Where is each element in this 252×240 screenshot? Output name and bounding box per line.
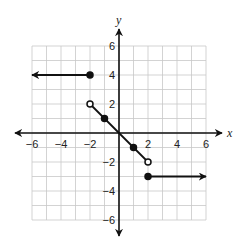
x-axis-label: x: [226, 126, 233, 140]
y-axis-label: y: [115, 13, 122, 27]
closed-point: [102, 116, 108, 122]
x-tick-label: −6: [26, 138, 39, 150]
y-tick-label: −4: [102, 185, 115, 197]
open-point: [87, 101, 93, 107]
x-tick-label: 2: [145, 138, 151, 150]
x-tick-label: −4: [55, 138, 68, 150]
y-tick-label: 2: [109, 98, 115, 110]
x-tick-label: −2: [84, 138, 97, 150]
closed-point: [131, 145, 137, 151]
axes: xy: [15, 13, 233, 236]
y-tick-label: −6: [102, 214, 115, 226]
closed-point: [87, 72, 93, 78]
closed-point: [145, 174, 151, 180]
x-tick-label: 6: [203, 138, 209, 150]
y-tick-label: −2: [102, 156, 115, 168]
y-tick-label: 4: [109, 69, 115, 81]
y-tick-label: 6: [109, 40, 115, 52]
x-tick-label: 4: [174, 138, 180, 150]
open-point: [145, 159, 151, 165]
coordinate-plane: xy −6−4−2246642−2−4−6: [0, 0, 252, 240]
